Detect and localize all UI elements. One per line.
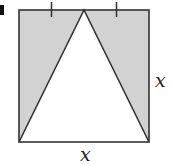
side-label-bottom: x bbox=[80, 143, 91, 165]
part-label-fragment bbox=[0, 5, 4, 15]
square-triangle-diagram: x x bbox=[0, 0, 171, 165]
side-label-right: x bbox=[155, 69, 166, 91]
